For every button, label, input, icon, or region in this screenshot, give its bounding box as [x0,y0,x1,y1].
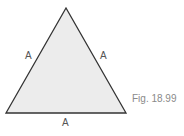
bottom-side-label: A [62,117,69,128]
equilateral-triangle [6,8,126,113]
figure-caption: Fig. 18.99 [132,93,177,104]
right-side-label: A [100,50,107,61]
left-side-label: A [25,50,32,61]
triangle-diagram: A A A Fig. 18.99 [0,0,184,136]
